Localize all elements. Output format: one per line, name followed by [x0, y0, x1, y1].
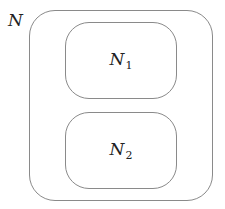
subset-label-2-subscript: 2: [125, 149, 132, 162]
subset-label-2-base: N: [110, 139, 125, 159]
subset-label-1: N1: [110, 51, 133, 71]
subset-label-1-subscript: 1: [125, 59, 132, 72]
outer-set-label: N: [8, 12, 23, 29]
subset-label-2: N2: [110, 141, 133, 161]
subset-box-1: N1: [65, 22, 177, 99]
subset-box-2: N2: [65, 112, 177, 189]
subset-label-1-base: N: [110, 49, 125, 69]
